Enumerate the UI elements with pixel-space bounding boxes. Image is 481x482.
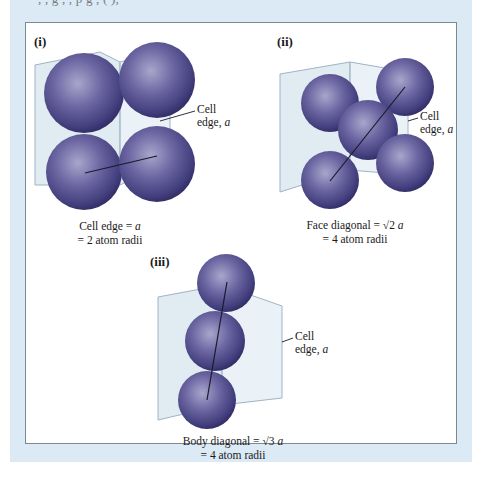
caption-line1: Face diagonal = √2 <box>306 219 397 231</box>
cell-edge-label-ii: Cell edge, a <box>420 110 453 136</box>
caption-ii: Face diagonal = √2 a = 4 atom radii <box>300 218 410 246</box>
caption-line2: = 4 atom radii <box>300 232 410 246</box>
caption-i: Cell edge = a = 2 atom radii <box>50 219 170 247</box>
cell-edge-label-line2: edge, <box>197 116 224 128</box>
caption-line1: Cell edge = <box>79 220 135 232</box>
caption-variable: a <box>135 220 141 232</box>
caption-variable: a <box>277 435 283 447</box>
panel-label-ii: (ii) <box>277 34 293 50</box>
cell-edge-variable: a <box>447 123 453 135</box>
cell-edge-label-i: Cell edge, a <box>197 103 230 129</box>
caption-variable: a <box>398 219 404 231</box>
cell-edge-label-line2: edge, <box>295 343 322 355</box>
cell-edge-label-line1: Cell <box>197 103 230 116</box>
cell-edge-variable: a <box>224 116 230 128</box>
caption-line2: = 4 atom radii <box>168 448 298 462</box>
face-centered-cubic-diagram <box>280 58 434 209</box>
cell-edge-label-iii: Cell edge, a <box>295 330 328 356</box>
cell-edge-label-line2: edge, <box>420 123 447 135</box>
panel-label-i: (i) <box>34 34 46 50</box>
cell-edge-label-line1: Cell <box>420 110 453 123</box>
simple-cubic-diagram <box>35 42 195 210</box>
body-centered-cubic-diagram <box>158 254 293 429</box>
caption-line1: Body diagonal = √3 <box>183 435 278 447</box>
caption-line2: = 2 atom radii <box>50 233 170 247</box>
caption-iii: Body diagonal = √3 a = 4 atom radii <box>168 434 298 462</box>
cell-edge-label-line1: Cell <box>295 330 328 343</box>
panel-label-iii: (iii) <box>150 254 170 270</box>
cell-edge-variable: a <box>322 343 328 355</box>
